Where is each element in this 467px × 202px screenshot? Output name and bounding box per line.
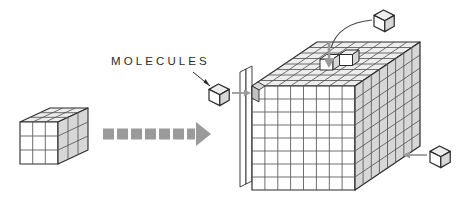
small-crystal-block <box>20 108 88 164</box>
figure-svg <box>0 0 467 202</box>
small-block-front-face <box>20 122 58 164</box>
growth-arrow <box>103 122 211 146</box>
growth-arrow-head <box>196 122 211 146</box>
molecules-label: MOLECULES <box>111 56 210 68</box>
molecules-label-leader <box>193 72 210 86</box>
large-block-back-sliver-a <box>240 69 246 187</box>
figure-canvas: MOLECULES <box>0 0 467 202</box>
large-block-back-sliver-b <box>246 66 252 184</box>
